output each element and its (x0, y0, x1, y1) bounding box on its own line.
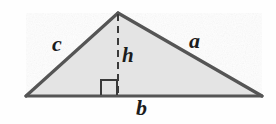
side-label-a: a (189, 30, 200, 52)
height-label-h: h (122, 45, 134, 66)
base-label-b: b (136, 97, 147, 119)
triangle-area-diagram: c a h b (0, 0, 276, 124)
side-label-c: c (52, 33, 62, 55)
